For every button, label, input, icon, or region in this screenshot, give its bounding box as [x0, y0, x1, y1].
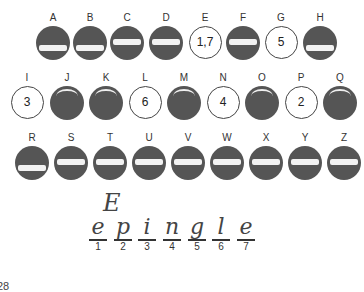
disc-number: 4 [208, 95, 239, 109]
disc-letter-label: Y [285, 132, 325, 144]
disc-letter-label: L [125, 72, 165, 84]
disc-highlight [229, 39, 257, 45]
disc-number: 5 [266, 35, 297, 49]
disc-cell-n: N4 [203, 72, 243, 119]
disc-letter-label: M [164, 72, 204, 84]
open-disc: 4 [207, 86, 240, 119]
handwritten-answer-letter: e [236, 215, 256, 239]
disc-cell-p: P2 [281, 72, 321, 119]
disc-cell-x: X [246, 132, 286, 180]
filled-disc [93, 146, 127, 180]
disc-letter-label: C [107, 12, 147, 24]
answer-slot-5: g5 [187, 215, 207, 253]
disc-letter-label: K [86, 72, 126, 84]
filled-disc [323, 86, 357, 120]
filled-disc [50, 86, 84, 120]
disc-highlight [56, 89, 78, 103]
disc-letter-label: H [300, 12, 340, 24]
answer-slot-3: i3 [137, 215, 157, 253]
disc-highlight [252, 159, 280, 165]
disc-highlight [113, 39, 141, 45]
disc-number: 6 [130, 95, 161, 109]
disc-cell-d: D [146, 12, 186, 60]
disc-highlight [96, 159, 124, 165]
slot-number: 6 [211, 241, 231, 253]
disc-highlight [173, 89, 195, 103]
answer-slot-7: e7 [236, 215, 256, 253]
filled-disc [171, 146, 205, 180]
disc-cell-a: A [33, 12, 73, 60]
disc-cell-o: O [242, 72, 282, 120]
filled-disc [110, 26, 144, 60]
answer-slot-2: p2 [113, 215, 133, 253]
disc-highlight [329, 89, 351, 103]
handwritten-answer-letter: i [137, 215, 157, 239]
disc-highlight [39, 45, 67, 51]
disc-letter-label: Q [320, 72, 360, 84]
disc-letter-label: Z [324, 132, 364, 144]
filled-disc [210, 146, 244, 180]
disc-letter-label: T [90, 132, 130, 144]
disc-cell-m: M [164, 72, 204, 120]
filled-disc [149, 26, 183, 60]
filled-disc [303, 26, 337, 60]
disc-letter-label: U [129, 132, 169, 144]
disc-highlight [152, 39, 180, 45]
disc-letter-label: G [261, 12, 301, 24]
filled-disc [288, 146, 322, 180]
handwritten-answer-letter: g [187, 215, 207, 239]
disc-cell-b: B [70, 12, 110, 60]
filled-disc [36, 26, 70, 60]
disc-number: 1,7 [190, 35, 221, 49]
filled-disc [73, 26, 107, 60]
open-disc: 1,7 [189, 26, 222, 59]
disc-letter-label: D [146, 12, 186, 24]
disc-letter-label: X [246, 132, 286, 144]
disc-highlight [251, 89, 273, 103]
disc-letter-label: V [168, 132, 208, 144]
disc-letter-label: B [70, 12, 110, 24]
disc-cell-t: T [90, 132, 130, 180]
disc-letter-label: F [223, 12, 263, 24]
slot-number: 2 [113, 241, 133, 253]
disc-cell-s: S [51, 132, 91, 180]
disc-cell-u: U [129, 132, 169, 180]
page-number: 28 [0, 280, 9, 292]
answer-slot-1: e1 [88, 215, 108, 253]
open-disc: 2 [285, 86, 318, 119]
disc-number: 3 [12, 95, 43, 109]
disc-letter-label: W [207, 132, 247, 144]
disc-highlight [306, 45, 334, 51]
disc-letter-label: J [47, 72, 87, 84]
disc-cell-c: C [107, 12, 147, 60]
answer-slot-4: n4 [162, 215, 182, 253]
disc-letter-label: R [12, 132, 52, 144]
open-disc: 3 [11, 86, 44, 119]
filled-disc [226, 26, 260, 60]
filled-disc [249, 146, 283, 180]
disc-cell-h: H [300, 12, 340, 60]
disc-highlight [95, 89, 117, 103]
disc-highlight [76, 45, 104, 51]
filled-disc [327, 146, 361, 180]
disc-cell-q: Q [320, 72, 360, 120]
handwritten-answer-letter: n [162, 215, 182, 239]
disc-cell-f: F [223, 12, 263, 60]
disc-highlight [18, 165, 46, 171]
disc-letter-label: N [203, 72, 243, 84]
slot-number: 7 [236, 241, 256, 253]
disc-cell-v: V [168, 132, 208, 180]
disc-letter-label: O [242, 72, 282, 84]
disc-highlight [330, 159, 358, 165]
disc-cell-z: Z [324, 132, 364, 180]
disc-cell-y: Y [285, 132, 325, 180]
handwritten-letter: E [103, 189, 121, 217]
disc-cell-r: R [12, 132, 52, 180]
filled-disc [167, 86, 201, 120]
disc-letter-label: S [51, 132, 91, 144]
open-disc: 5 [265, 26, 298, 59]
disc-highlight [57, 159, 85, 165]
disc-cell-k: K [86, 72, 126, 120]
disc-cell-j: J [47, 72, 87, 120]
disc-cell-g: G5 [261, 12, 301, 59]
